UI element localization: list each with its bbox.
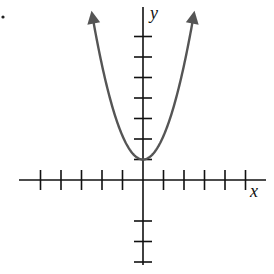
y-axis (134, 7, 152, 265)
y-axis-label: y (148, 3, 158, 23)
x-axis-label: x (249, 181, 258, 201)
arrowhead-left-icon (87, 11, 100, 25)
parabola-chart: x y (0, 0, 274, 274)
stray-dot (1, 15, 4, 18)
arrowhead-right-icon (186, 11, 199, 25)
